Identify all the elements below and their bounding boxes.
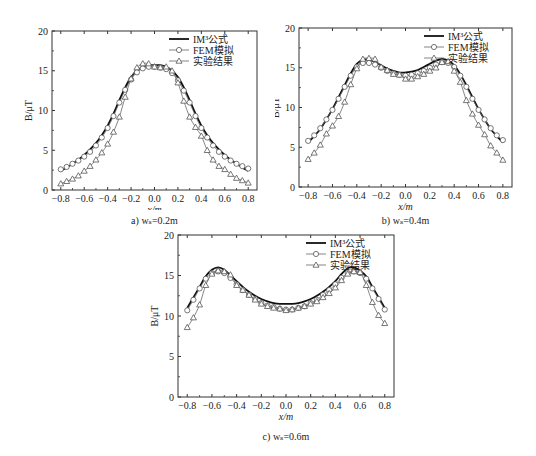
triangle-marker [488, 143, 494, 148]
chart-c-plot: 05101520−0.8−0.6−0.4−0.20.00.20.40.60.8x… [149, 230, 394, 423]
x-tick-label: 0.2 [304, 400, 317, 411]
y-tick-label: 0 [169, 392, 174, 403]
circle-marker [140, 66, 145, 71]
legend-label: FEM模拟 [193, 44, 234, 56]
circle-marker [488, 126, 493, 131]
triangle-marker [210, 157, 216, 162]
series-fem [185, 269, 388, 313]
triangle-marker [75, 173, 81, 178]
circle-marker [193, 113, 198, 118]
y-tick-label: 5 [43, 145, 48, 156]
circle-marker [197, 286, 202, 291]
circle-marker [342, 84, 347, 89]
chart-a-plot: 05101520−0.8−0.6−0.4−0.20.00.20.40.60.8x… [23, 26, 257, 211]
x-tick-label: −0.4 [99, 193, 117, 204]
legend: IM³公式FEM模拟实验结果 [169, 33, 234, 67]
chart-panel-a: 05101520−0.8−0.6−0.4−0.20.00.20.40.60.8x… [10, 8, 272, 230]
x-tick-label: 0.8 [378, 400, 391, 411]
x-tick-label: 0.6 [472, 190, 485, 201]
triangle-marker [372, 56, 378, 61]
y-tick-label: 20 [164, 230, 174, 241]
x-tick-label: −0.2 [252, 400, 270, 411]
y-tick-label: 15 [38, 65, 48, 76]
legend-label: IM³公式 [330, 237, 365, 249]
y-tick-label: 0 [43, 185, 48, 196]
triangle-marker [116, 114, 122, 119]
series-experiment [58, 61, 251, 186]
triangle-line [187, 270, 384, 327]
x-tick-label: 0.2 [172, 193, 185, 204]
circle-marker [191, 297, 196, 302]
x-tick-label: 0.0 [280, 400, 293, 411]
legend-label: FEM模拟 [330, 248, 371, 260]
triangle-marker [369, 299, 375, 304]
chart-b-caption: b) wₛ=0.4m [299, 215, 512, 226]
circle-marker [476, 107, 481, 112]
legend-circle-icon [313, 251, 318, 256]
circle-marker [210, 143, 215, 148]
series-experiment [305, 55, 506, 162]
x-tick-label: 0.0 [399, 190, 412, 201]
x-tick-label: 0.4 [329, 400, 342, 411]
x-tick-label: −0.6 [75, 193, 93, 204]
circle-marker [312, 133, 317, 138]
circle-marker [185, 308, 190, 313]
triangle-marker [342, 99, 348, 104]
triangle-marker [190, 315, 196, 320]
circle-marker [70, 161, 75, 166]
circle-marker [228, 158, 233, 163]
circle-marker [111, 113, 116, 118]
circle-marker [376, 296, 381, 301]
y-axis-label: B/μT [23, 100, 34, 121]
legend-circle-icon [176, 47, 181, 52]
x-tick-label: 0.0 [148, 193, 161, 204]
legend: IM³公式FEM模拟实验结果 [306, 237, 371, 271]
x-tick-label: −0.4 [228, 400, 246, 411]
y-tick-label: 20 [38, 26, 48, 37]
triangle-marker [111, 129, 117, 134]
circle-marker [330, 107, 335, 112]
x-tick-label: −0.2 [372, 190, 390, 201]
triangle-marker [105, 141, 111, 146]
chart-b-plot: 05101520−0.8−0.6−0.4−0.20.00.20.40.60.8x… [275, 23, 512, 211]
circle-marker [464, 84, 469, 89]
y-tick-label: 10 [285, 102, 295, 113]
triangle-marker [323, 131, 329, 136]
circle-marker [117, 100, 122, 105]
triangle-marker [197, 302, 203, 307]
x-tick-label: −0.4 [348, 190, 366, 201]
triangle-marker [476, 122, 482, 127]
circle-marker [216, 149, 221, 154]
circle-marker [318, 126, 323, 131]
y-tick-label: 20 [285, 23, 295, 34]
y-tick-label: 5 [169, 351, 174, 362]
circle-marker [246, 166, 251, 171]
x-tick-label: 0.8 [497, 190, 510, 201]
triangle-marker [58, 181, 64, 186]
x-tick-label: −0.6 [323, 190, 341, 201]
x-axis-label: x/m [278, 411, 293, 422]
triangle-marker [81, 168, 87, 173]
circle-marker [240, 164, 245, 169]
series-formula [61, 65, 248, 171]
circle-marker [82, 154, 87, 159]
triangle-marker [204, 147, 210, 152]
y-axis-label: B/μT [275, 97, 281, 118]
legend-label: IM³公式 [193, 33, 228, 45]
triangle-marker [469, 111, 475, 116]
triangle-marker [222, 166, 228, 171]
triangle-marker [348, 81, 354, 86]
circle-marker [76, 158, 81, 163]
x-tick-label: 0.6 [354, 400, 367, 411]
x-tick-label: −0.8 [178, 400, 196, 411]
x-tick-label: 0.4 [448, 190, 461, 201]
triangle-marker [363, 282, 369, 287]
x-tick-label: 0.6 [219, 193, 232, 204]
x-tick-label: −0.6 [203, 400, 221, 411]
circle-marker [370, 286, 375, 291]
y-tick-label: 15 [285, 62, 295, 73]
circle-marker [470, 96, 475, 101]
triangle-marker [198, 133, 204, 138]
circle-marker [58, 167, 63, 172]
y-tick-label: 10 [38, 105, 48, 116]
